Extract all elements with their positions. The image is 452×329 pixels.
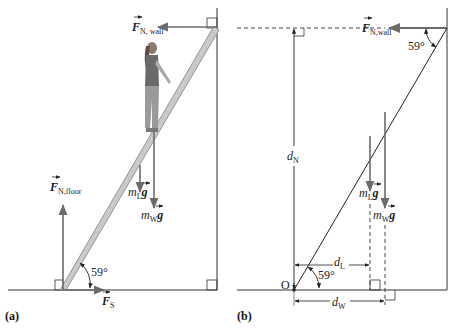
right-angle-woman-floor: [385, 290, 395, 300]
label-normal-floor: FN,floor: [49, 177, 82, 196]
right-angle-top-b: [294, 28, 304, 36]
angle-label-top: 59°: [408, 39, 425, 53]
ladder-diagram: FN, wall FN,floor mLg mWg FS 59°: [0, 0, 452, 329]
right-angle-ladder-floor: [370, 280, 380, 290]
angle-label-a: 59°: [91, 265, 108, 279]
svg-text:mLg: mLg: [128, 185, 148, 201]
panel-label-a: (a): [5, 309, 19, 323]
svg-text:FS: FS: [101, 294, 114, 310]
right-angle-floor-wall: [207, 280, 217, 290]
svg-text:FN, wall: FN, wall: [131, 20, 164, 36]
svg-text:FN,wall: FN,wall: [361, 21, 392, 37]
label-ladder-weight-b: mLg: [359, 186, 379, 202]
panel-a: FN, wall FN,floor mLg mWg FS 59°: [5, 8, 219, 323]
panel-label-b: (b): [237, 309, 252, 323]
svg-text:FN,floor: FN,floor: [49, 180, 82, 196]
angle-arc-a: [80, 263, 90, 288]
panel-b: FN,wall 59° dN mLg mWg dL 59°: [237, 8, 447, 323]
label-ladder-weight-a: mLg: [128, 183, 150, 201]
label-static-friction: FS: [101, 292, 114, 310]
svg-text:mWg: mWg: [141, 208, 163, 224]
ladder: [60, 26, 219, 290]
angle-label-bottom: 59°: [318, 268, 335, 282]
angle-arc-top: [426, 29, 436, 47]
label-normal-wall-a: FN, wall: [131, 17, 164, 36]
label-woman-weight-a: mWg: [141, 206, 163, 224]
origin-label: O: [281, 278, 290, 292]
label-woman-weight-b: mWg: [373, 208, 395, 224]
label-normal-wall-b: FN,wall: [361, 18, 392, 37]
